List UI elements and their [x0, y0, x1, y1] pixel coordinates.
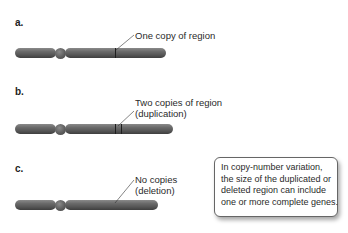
callout-line-2: the size of the duplicated or	[221, 174, 337, 186]
annotation-two-copies-line2: (duplication)	[135, 108, 222, 119]
chromosome-a-region-band	[115, 48, 116, 58]
callout-line-3: deleted region can include	[221, 185, 337, 197]
annotation-two-copies: Two copies of region (duplication)	[135, 97, 222, 119]
chromosome-a-short-arm	[15, 48, 56, 58]
annotation-no-copies-line1: No copies	[135, 174, 177, 185]
chromosome-c	[15, 200, 158, 210]
panel-b-label: b.	[15, 86, 24, 97]
annotation-one-copy-line1: One copy of region	[135, 30, 215, 41]
callout-line-1: In copy-number variation,	[221, 162, 337, 174]
annotation-two-copies-line1: Two copies of region	[135, 97, 222, 108]
chromosome-b-region-band-2	[121, 124, 122, 134]
chromosome-b-short-arm	[15, 124, 56, 134]
chromosome-b-region-band-1	[115, 124, 116, 134]
panel-c-label: c.	[15, 163, 23, 174]
annotation-no-copies: No copies (deletion)	[135, 174, 177, 196]
chromosome-c-long-arm	[65, 200, 158, 210]
chromosome-a	[15, 48, 166, 58]
callout-line-4: one or more complete genes.	[221, 197, 337, 209]
annotation-one-copy: One copy of region	[135, 30, 215, 41]
chromosome-c-short-arm	[15, 200, 56, 210]
chromosome-b	[15, 124, 173, 134]
annotation-no-copies-line2: (deletion)	[135, 185, 177, 196]
callout-box: In copy-number variation, the size of th…	[214, 157, 338, 217]
chromosome-b-long-arm	[65, 124, 173, 134]
panel-a-label: a.	[15, 17, 23, 28]
